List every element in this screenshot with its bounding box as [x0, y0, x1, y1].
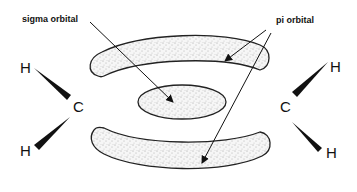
orbital-diagram: sigma orbital pi orbital H C H H C H: [0, 0, 357, 192]
right-wedge-bond-bottom: [292, 122, 322, 152]
right-hydrogen-top: H: [330, 58, 341, 75]
sigma-orbital-label: sigma orbital: [22, 14, 78, 24]
left-wedge-bond-top: [34, 68, 71, 100]
left-wedge-bond-bottom: [34, 117, 70, 150]
pi-orbital-top-lobe: [90, 35, 269, 76]
left-hydrogen-bottom: H: [20, 142, 31, 159]
right-hydrogen-bottom: H: [326, 144, 337, 161]
left-carbon: C: [73, 98, 84, 115]
right-carbon: C: [280, 98, 291, 115]
pi-orbital-label: pi orbital: [276, 15, 314, 25]
left-hydrogen-top: H: [20, 59, 31, 76]
sigma-orbital: [138, 85, 226, 119]
right-wedge-bond-top: [292, 62, 328, 97]
pi-orbital-bottom-lobe: [91, 127, 270, 168]
